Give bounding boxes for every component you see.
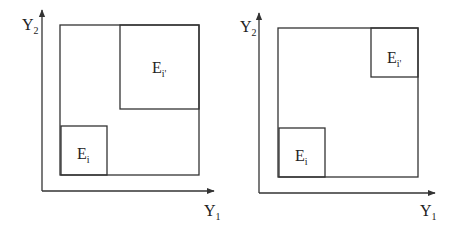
diagram-canvas: Y2 Y1 Ei' Ei Y2 Y1 Ei' Ei (0, 0, 455, 226)
y-axis-label: Y2 (240, 18, 257, 38)
region-small-label: Ei (295, 147, 308, 167)
region-small-label: Ei (77, 145, 90, 165)
left-panel: Y2 Y1 Ei' Ei (22, 10, 221, 222)
region-large-label: Ei' (387, 49, 402, 69)
y-axis-label: Y2 (22, 16, 39, 36)
x-axis-label: Y1 (420, 202, 437, 222)
x-axis-label: Y1 (204, 202, 221, 222)
right-panel: Y2 Y1 Ei' Ei (240, 13, 437, 222)
region-large-label: Ei' (152, 59, 167, 79)
